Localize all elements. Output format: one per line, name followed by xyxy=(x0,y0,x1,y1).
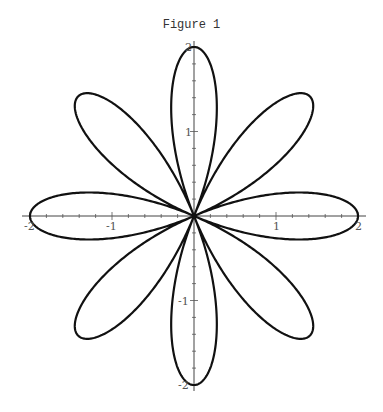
polar-rose-chart: -2-112-2-112 xyxy=(0,0,383,412)
x-tick-label: -1 xyxy=(106,220,117,233)
x-tick-label: -2 xyxy=(24,220,35,233)
x-tick-label: 2 xyxy=(355,220,362,233)
x-tick-label: 1 xyxy=(273,220,280,233)
y-tick-label: -2 xyxy=(178,379,189,392)
y-tick-label: 2 xyxy=(185,41,192,54)
y-tick-label: -1 xyxy=(178,295,189,308)
y-tick-label: 1 xyxy=(185,126,192,139)
